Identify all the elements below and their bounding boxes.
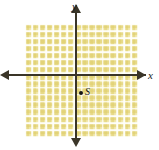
- x-axis-left-arrow-icon: [0, 70, 9, 80]
- plotted-point-s-marker: [79, 91, 83, 95]
- plotted-point-s-label: S: [85, 87, 90, 97]
- y-axis-down-arrow-icon: [71, 138, 81, 147]
- x-axis-label: x: [148, 70, 153, 81]
- plaid-grid-background: [25, 24, 138, 137]
- coordinate-plane-figure: y x S: [0, 0, 159, 150]
- y-axis-line: [75, 12, 77, 142]
- x-axis-right-arrow-icon: [137, 70, 146, 80]
- y-axis-label: y: [72, 1, 77, 12]
